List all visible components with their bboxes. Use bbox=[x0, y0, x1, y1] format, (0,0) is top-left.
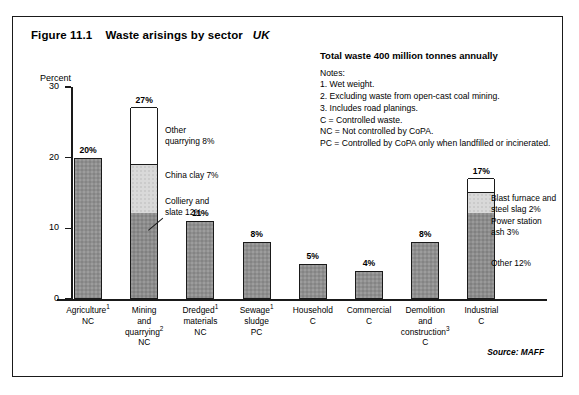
source-note: Source: MAFF bbox=[487, 347, 544, 357]
x-axis-label-line: PC bbox=[226, 327, 288, 338]
note-item: C = Controlled waste. bbox=[320, 115, 570, 127]
footnote-marker: 1 bbox=[215, 303, 219, 310]
x-axis-label: Dredged1materialsNC bbox=[169, 305, 231, 337]
x-axis-label-line: Commercial bbox=[338, 305, 400, 316]
x-axis-line bbox=[57, 299, 547, 301]
figure-frame: Figure 11.1 Waste arisings by sector UK … bbox=[12, 16, 563, 377]
x-axis-label-line: Agriculture1 bbox=[57, 305, 119, 316]
y-tick-label: 20 bbox=[35, 152, 59, 162]
figure-region: UK bbox=[253, 29, 270, 41]
annotation-other-quarrying: Other quarrying 8% bbox=[165, 125, 214, 147]
bar-segment bbox=[468, 192, 494, 213]
footnote-marker: 1 bbox=[106, 303, 110, 310]
x-axis-label: HouseholdC bbox=[282, 305, 344, 327]
figure-title: Figure 11.1 Waste arisings by sector UK bbox=[31, 29, 270, 41]
notes-heading: Notes: bbox=[320, 68, 570, 78]
notes-total-waste: Total waste 400 million tonnes annually bbox=[320, 50, 570, 61]
footnote-marker: 3 bbox=[446, 325, 450, 332]
annotation-blast-furnace: Blast furnace and steel slag 2% bbox=[491, 193, 556, 215]
bar bbox=[355, 271, 383, 299]
bar-segment bbox=[131, 164, 157, 213]
annotation-china-clay: China clay 7% bbox=[165, 170, 219, 181]
notes-panel: Total waste 400 million tonnes annually … bbox=[320, 50, 570, 150]
footnote-marker: 2 bbox=[160, 325, 164, 332]
x-axis-label-line: materials bbox=[169, 316, 231, 327]
y-tick-label: 10 bbox=[35, 222, 59, 232]
x-axis-label-line: C bbox=[394, 337, 456, 348]
bar-value-label: 4% bbox=[349, 258, 389, 268]
bar-value-label: 27% bbox=[124, 95, 164, 105]
annotation-power-station-ash: Power station ash 3% bbox=[491, 216, 542, 238]
bar-segment bbox=[468, 178, 494, 192]
x-axis-label-line: NC bbox=[57, 316, 119, 327]
note-item: NC = Not controlled by CoPA. bbox=[320, 126, 570, 138]
x-axis-label-line: NC bbox=[169, 327, 231, 338]
note-item: PC = Controlled by CoPA only when landfi… bbox=[320, 138, 570, 150]
annotation-colliery-slate: Colliery and slate 12% bbox=[165, 196, 209, 218]
x-axis-label: Sewage1sludgePC bbox=[226, 305, 288, 337]
bar-segment bbox=[131, 107, 157, 164]
y-tick-label: 0 bbox=[35, 293, 59, 303]
x-axis-label-line: C bbox=[282, 316, 344, 327]
bar-value-label: 8% bbox=[405, 229, 445, 239]
x-axis-label: CommercialC bbox=[338, 305, 400, 327]
x-axis-label-line: C bbox=[450, 316, 512, 327]
bar bbox=[74, 158, 102, 299]
x-axis-label-line: sludge bbox=[226, 316, 288, 327]
x-axis-label: Agriculture1NC bbox=[57, 305, 119, 327]
bar bbox=[411, 242, 439, 299]
note-item: 2. Excluding waste from open-cast coal m… bbox=[320, 91, 570, 103]
x-axis-label-line: construction3 bbox=[394, 327, 456, 338]
figure-number: Figure 11.1 bbox=[31, 29, 92, 41]
bar-value-label: 17% bbox=[461, 166, 501, 176]
bar bbox=[130, 108, 158, 299]
bar-value-label: 20% bbox=[68, 145, 108, 155]
y-tick bbox=[65, 298, 71, 300]
bar-value-label: 11% bbox=[180, 208, 220, 218]
figure-title-text: Waste arisings by sector bbox=[105, 29, 242, 41]
x-axis-label: Miningandquarrying2NC bbox=[113, 305, 175, 348]
y-axis-line bbox=[71, 87, 73, 300]
bar-segment bbox=[468, 213, 494, 298]
note-item: 1. Wet weight. bbox=[320, 79, 570, 91]
footnote-marker: 1 bbox=[270, 303, 274, 310]
note-item: 3. Includes road planings. bbox=[320, 103, 570, 115]
bar bbox=[467, 179, 495, 299]
bar-value-label: 8% bbox=[237, 229, 277, 239]
y-tick bbox=[65, 86, 71, 88]
x-axis-label-line: and bbox=[394, 316, 456, 327]
bar bbox=[299, 264, 327, 299]
leader-line-colliery bbox=[148, 218, 163, 231]
x-axis-label: IndustrialC bbox=[450, 305, 512, 327]
x-axis-label: Demolitionandconstruction3C bbox=[394, 305, 456, 348]
annotation-industrial-other: Other 12% bbox=[491, 258, 531, 269]
x-axis-label-line: Dredged1 bbox=[169, 305, 231, 316]
x-axis-label-line: and bbox=[113, 316, 175, 327]
y-tick bbox=[65, 228, 71, 230]
x-axis-label-line: quarrying2 bbox=[113, 327, 175, 338]
bar bbox=[243, 242, 271, 299]
x-axis-label-line: Household bbox=[282, 305, 344, 316]
y-axis-title: Percent bbox=[40, 73, 71, 83]
x-axis-label-line: Mining bbox=[113, 305, 175, 316]
x-axis-label-line: Demolition bbox=[394, 305, 456, 316]
bar bbox=[186, 221, 214, 299]
x-axis-label-line: Sewage1 bbox=[226, 305, 288, 316]
bar-segment bbox=[131, 213, 157, 298]
y-tick bbox=[65, 157, 71, 159]
x-axis-label-line: NC bbox=[113, 337, 175, 348]
bar-value-label: 5% bbox=[293, 251, 333, 261]
x-axis-label-line: Industrial bbox=[450, 305, 512, 316]
x-axis-label-line: C bbox=[338, 316, 400, 327]
